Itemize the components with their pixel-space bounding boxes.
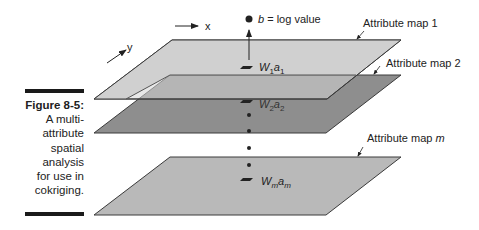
- svg-text:b = log value: b = log value: [258, 13, 321, 25]
- attribute-map-2-label: Attribute map 2: [386, 57, 461, 69]
- dot-icon: [247, 129, 251, 133]
- output-dot-icon: [246, 16, 253, 23]
- cokriging-diagram: x y b = log value W1a1 W2a2: [0, 0, 479, 230]
- attribute-map-1-label: Attribute map 1: [363, 17, 438, 29]
- leader-arrow-icon: [357, 31, 364, 39]
- x-axis-label: x: [205, 20, 211, 32]
- leader-arrow-icon: [358, 147, 363, 156]
- attr-subscript: 2: [280, 104, 285, 113]
- attr-subscript: m: [284, 181, 291, 190]
- svg-text:Attribute map m: Attribute map m: [367, 132, 445, 144]
- attribute-map-m-index: m: [435, 132, 444, 144]
- attr-subscript: 1: [280, 67, 285, 76]
- leader-arrow-icon: [374, 66, 380, 74]
- dot-icon: [247, 163, 251, 167]
- label-attribute-map-2: Attribute map 2: [374, 57, 461, 74]
- label-attribute-map-m: Attribute map m: [358, 132, 445, 156]
- dot-icon: [247, 113, 251, 117]
- y-axis-arrow-icon: [107, 50, 126, 63]
- output-label: = log value: [264, 13, 321, 25]
- y-axis-label: y: [127, 41, 133, 53]
- label-attribute-map-1: Attribute map 1: [357, 17, 438, 39]
- dot-icon: [247, 146, 251, 150]
- attribute-map-m-label: Attribute map: [367, 132, 435, 144]
